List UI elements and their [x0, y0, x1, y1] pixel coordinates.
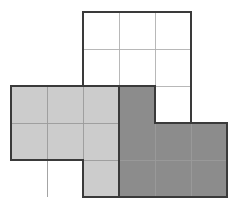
- grid-cell-white-r0-c4: [155, 12, 191, 49]
- grid-cell-dark-r3-c5: [191, 123, 227, 160]
- grid-cell-dark-r3-c4: [155, 123, 191, 160]
- grid-cell-light-r4-c2: [83, 160, 119, 197]
- grid-cell-dark-r2-c3: [119, 86, 155, 123]
- polyomino-figure-canvas: [0, 0, 236, 209]
- grid-cell-light-r2-c2: [83, 86, 119, 123]
- grid-cell-white-r0-c2: [83, 12, 119, 49]
- grid-cell-dark-r4-c3: [119, 160, 155, 197]
- grid-cell-light-r3-c2: [83, 123, 119, 160]
- grid-cell-white-r0-c3: [119, 12, 155, 49]
- grid-cell-white-r1-c2: [83, 49, 119, 86]
- polyomino-diagram: [0, 0, 236, 209]
- grid-cell-dark-r4-c5: [191, 160, 227, 197]
- grid-cell-dark-r3-c3: [119, 123, 155, 160]
- grid-cell-light-r3-c1: [47, 123, 83, 160]
- grid-cell-light-r3-c0: [11, 123, 47, 160]
- grid-cell-white-r1-c3: [119, 49, 155, 86]
- grid-cell-light-r2-c1: [47, 86, 83, 123]
- grid-cell-white-r2-c4: [155, 86, 191, 123]
- grid-cell-light-r2-c0: [11, 86, 47, 123]
- grid-cell-white-r1-c4: [155, 49, 191, 86]
- grid-cell-dark-r4-c4: [155, 160, 191, 197]
